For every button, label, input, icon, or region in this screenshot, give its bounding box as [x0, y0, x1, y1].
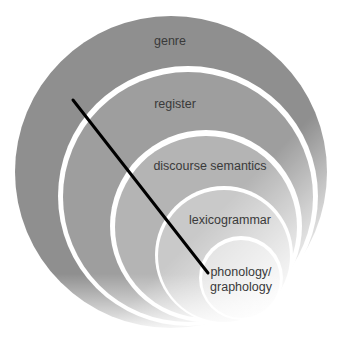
label-lexicogrammar: lexicogrammar [180, 213, 280, 227]
label-discourse-semantics: discourse semantics [145, 159, 275, 173]
label-graphology: graphology [205, 280, 277, 294]
stratification-diagram [0, 0, 342, 351]
label-phonology: phonology/ [205, 265, 277, 279]
label-register: register [140, 97, 210, 111]
label-genre: genre [140, 34, 200, 48]
fade-overlay-bottom [0, 0, 342, 351]
